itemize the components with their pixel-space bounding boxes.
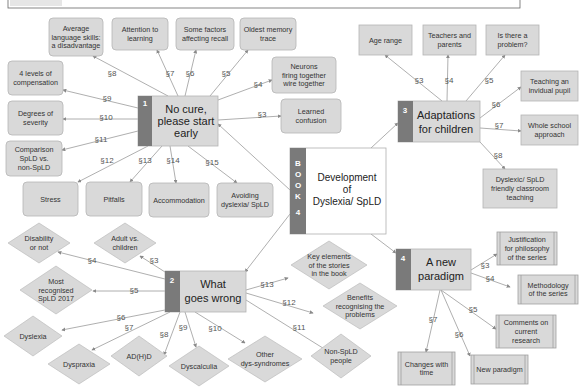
section-label: §4 [254, 80, 263, 89]
section-label: §7 [495, 121, 504, 130]
topic-label: goes wrong [185, 292, 242, 304]
section-label: §14 [166, 156, 180, 165]
node-label: Pitfalls [103, 195, 125, 204]
node-label: in the book [311, 269, 347, 278]
section-label: §4 [88, 256, 97, 265]
node-label: affecting recall [182, 34, 229, 43]
center-title-line: Development [318, 172, 377, 183]
section-label: §11 [293, 323, 306, 332]
node-label: Other [256, 350, 275, 359]
node-label: current [515, 327, 537, 336]
node-label: Age range [369, 36, 402, 45]
connector-line [62, 310, 165, 330]
node-label: Degrees of [18, 109, 53, 118]
node-label: people [330, 356, 352, 365]
book-letter: K [295, 192, 301, 201]
topic2-child-node: Key elementsof the storiesin the book [291, 241, 367, 289]
section-label: §7 [125, 323, 134, 332]
node-label: Justification [508, 235, 546, 244]
section-label: §5 [485, 76, 494, 85]
connector-line [218, 80, 272, 100]
connector-line [371, 123, 398, 148]
node-label: approach [535, 130, 565, 139]
topic2-child-node: Benefitsrecognising theproblems [323, 283, 397, 329]
node-label: research [512, 336, 540, 345]
book-letter: B [295, 159, 301, 168]
section-label: §4 [486, 274, 495, 283]
book-letter: O [295, 181, 301, 190]
topic4-child-node: Changes withtime [398, 352, 455, 385]
topic4-child-node: Comments oncurrentresearch [496, 315, 556, 348]
node-label: of the series [528, 289, 568, 298]
node-label: Dyscalculia [181, 362, 217, 371]
node-label: Whole school [528, 121, 572, 130]
node-label: Neurons [290, 62, 318, 71]
node-label: recognising the [336, 302, 385, 311]
node-label: for philosophy [505, 244, 550, 253]
node-label: confusion [296, 116, 327, 125]
section-label: §12 [282, 298, 296, 307]
node-label: Comparison [15, 145, 54, 154]
topic-label: early [174, 127, 198, 139]
topic1-child-node: Accommodation [149, 183, 209, 217]
node-label: problems [345, 310, 375, 319]
center-title-line: Dyslexia/ SpLD [313, 196, 381, 207]
section-label: §10 [208, 324, 222, 333]
section-label: §9 [103, 94, 112, 103]
topic4-child-node: Methodologyof the series [518, 275, 578, 304]
node-label: children [112, 243, 137, 252]
node-label: New paradigm [476, 365, 522, 374]
node-label: SpLD vs. [19, 154, 48, 163]
node-label: invidual pupil [529, 86, 571, 95]
node-label: learning [127, 34, 153, 43]
node-label: Dyspraxia [63, 360, 95, 369]
node-label: Some factors [184, 25, 227, 34]
connector-line [480, 87, 521, 118]
section-label: §4 [445, 76, 454, 85]
topic1-child-node: Some factorsaffecting recall [176, 18, 234, 50]
topic2-child-node: Disabilityor not [8, 223, 70, 263]
section-label: §13 [260, 280, 274, 289]
topic3-child-node: Is there aproblem? [486, 25, 539, 55]
section-label: §8 [494, 151, 503, 160]
topic3-child-node: Teaching aninvidual pupil [521, 71, 578, 101]
topic4-child-node: New paradigm [471, 355, 528, 384]
topic-label: please start [158, 115, 215, 127]
book-number: 4 [296, 208, 301, 217]
topic1-child-node: ComparisonSpLD vs.non-SpLD [6, 141, 62, 176]
center-title-line: of [343, 184, 352, 195]
node-label: Methodology [527, 281, 569, 290]
topic3-child-node: Whole schoolapproach [521, 115, 578, 145]
section-label: §12 [100, 156, 114, 165]
section-label: §3 [150, 256, 159, 265]
node-label: Teaching an [530, 77, 569, 86]
topic2-child-node: AD(H)D [111, 336, 167, 376]
node-label: problem? [498, 40, 528, 49]
node-label: severity [23, 118, 48, 127]
node-label: friendly classroom [491, 184, 549, 193]
topic-label: A new [426, 256, 456, 268]
section-label: §9 [179, 323, 188, 332]
section-label: §10 [99, 113, 113, 122]
node-label: parents [438, 40, 462, 49]
node-label: Dyslexia [19, 332, 46, 341]
node-label: Key elements [307, 252, 351, 261]
topic1-child-node: Attention tolearning [112, 18, 168, 50]
node-label: Benefits [347, 293, 373, 302]
section-label: §3 [481, 261, 490, 270]
node-label: compensation [13, 78, 58, 87]
connector-line [218, 124, 290, 190]
topic1-child-node: Learnedconfusion [281, 99, 341, 133]
section-label: §5 [222, 69, 231, 78]
node-label: Is there a [498, 31, 528, 40]
topic-node-4: 4 A new paradigm [396, 249, 471, 290]
node-label: time [420, 368, 434, 377]
section-label: §6 [492, 100, 501, 109]
topic3-child-node: Dyslexic/ SpLDfriendly classroomteaching [483, 169, 557, 208]
node-label: a disadvantage [52, 41, 101, 50]
node-label: Average [63, 24, 90, 33]
topic1-child-node: Averagelanguage skills:a disadvantage [49, 18, 103, 56]
node-label: Learned [298, 107, 324, 116]
section-label: §6 [117, 313, 126, 322]
topic-number: 4 [401, 254, 406, 263]
